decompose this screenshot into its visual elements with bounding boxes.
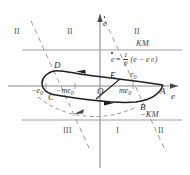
axis-mark-me0: me0: [119, 87, 131, 96]
point-label-A: A: [160, 87, 166, 96]
axis-mark-me0-sub: 0: [128, 90, 131, 96]
region-label-III-bottom-left: III: [63, 126, 72, 135]
equation-rhs: (e − e: [130, 55, 149, 64]
equation-fraction: 1 β: [123, 52, 129, 67]
region-label-II-top-right: II: [134, 27, 140, 36]
equation-numerator: 1: [123, 52, 129, 59]
axis-mark-minus-e0: −e0: [31, 87, 43, 96]
origin-label: O: [97, 87, 104, 96]
equation-rhs-close: ): [155, 55, 158, 64]
x-axis-label: e: [171, 92, 175, 101]
region-label-II-bottom-right: II: [158, 126, 164, 135]
axis-mark-minus-me0: −me0: [56, 87, 74, 96]
point-label-E: E: [110, 71, 116, 80]
phase-plane-figure: e e O II II II III I II KM −KM A B C D E…: [0, 0, 190, 175]
y-axis-label: e: [103, 19, 107, 28]
region-label-II-top-mid: II: [67, 27, 73, 36]
point-label-D: D: [54, 61, 61, 70]
point-label-C: C: [48, 93, 54, 102]
region-label-I-bottom-mid: I: [116, 126, 119, 135]
point-label-B: B: [140, 103, 146, 112]
equation-denominator: β: [123, 60, 129, 67]
axis-mark-e0: e0: [130, 71, 137, 80]
axis-mark-minus-me0-sub: 0: [71, 90, 74, 96]
km-label: KM: [136, 39, 149, 48]
equation-equals: =: [116, 55, 121, 64]
switching-line-equation: e = 1 β (e − e0): [111, 52, 157, 67]
axis-mark-minus-e0-sub: 0: [40, 90, 43, 96]
region-label-II-top-left: II: [14, 27, 20, 36]
equation-lhs: e: [111, 55, 115, 64]
equation-rhs-sub: 0: [151, 57, 154, 63]
axis-mark-e0-sub: 0: [134, 74, 137, 80]
